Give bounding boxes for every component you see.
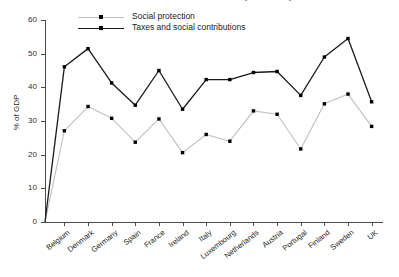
data-point-marker — [228, 78, 231, 81]
data-point-marker — [252, 109, 255, 112]
data-point-marker — [205, 78, 208, 81]
x-tick-mark — [112, 222, 113, 226]
x-tick-mark — [64, 222, 65, 226]
data-point-marker — [157, 69, 160, 72]
series-layer — [45, 20, 383, 222]
x-tick-mark — [230, 222, 231, 226]
data-point-marker — [110, 81, 113, 84]
series-line — [64, 39, 371, 110]
x-axis-line — [45, 222, 383, 223]
data-point-marker — [157, 117, 160, 120]
data-point-marker — [86, 105, 89, 108]
y-tick-mark — [41, 222, 45, 223]
data-point-marker — [252, 71, 255, 74]
x-tick-mark — [159, 222, 160, 226]
y-tick-label: 50 — [11, 50, 37, 58]
data-point-marker — [228, 140, 231, 143]
data-point-marker — [134, 141, 137, 144]
data-point-marker — [63, 129, 66, 132]
data-point-marker — [299, 147, 302, 150]
data-point-marker — [86, 47, 89, 50]
data-point-marker — [370, 125, 373, 128]
data-point-marker — [205, 133, 208, 136]
x-tick-mark — [135, 222, 136, 226]
y-tick-label: 20 — [11, 151, 37, 159]
data-point-marker — [299, 94, 302, 97]
x-tick-mark — [277, 222, 278, 226]
x-tick-mark — [324, 222, 325, 226]
y-tick-label: 60 — [11, 16, 37, 24]
data-point-marker — [181, 108, 184, 111]
x-tick-mark — [372, 222, 373, 226]
y-tick-label: 0 — [11, 218, 37, 226]
y-tick-label: 10 — [11, 184, 37, 192]
x-tick-mark — [348, 222, 349, 226]
data-point-marker — [323, 102, 326, 105]
x-tick-mark — [301, 222, 302, 226]
data-point-marker — [323, 55, 326, 58]
legend-marker-swatch — [99, 26, 103, 30]
data-point-marker — [63, 65, 66, 68]
chart-title: Taxes and social contributions (% of GDP… — [0, 0, 399, 1]
data-point-marker — [370, 100, 373, 103]
data-point-marker — [110, 117, 113, 120]
data-point-marker — [275, 70, 278, 73]
data-point-marker — [346, 37, 349, 40]
legend-marker-swatch — [99, 15, 103, 19]
x-tick-mark — [88, 222, 89, 226]
legend-label: Taxes and social contributions — [132, 22, 245, 32]
plot-area — [45, 20, 383, 222]
x-tick-mark — [206, 222, 207, 226]
x-tick-mark — [183, 222, 184, 226]
data-point-marker — [275, 113, 278, 116]
data-point-marker — [134, 103, 137, 106]
data-point-marker — [181, 151, 184, 154]
data-point-marker — [346, 92, 349, 95]
x-tick-mark — [253, 222, 254, 226]
line-chart: Taxes and social contributions (% of GDP… — [0, 0, 399, 277]
y-axis-title: % of GDP — [12, 83, 21, 143]
legend-label: Social protection — [132, 11, 195, 21]
